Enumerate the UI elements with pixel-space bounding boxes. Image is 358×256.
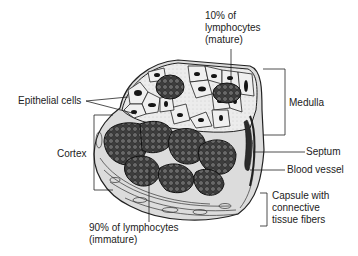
- label-medulla: Medulla: [289, 97, 324, 109]
- label-septum: Septum: [306, 146, 340, 158]
- label-mature-line-1: 10% of: [205, 10, 261, 22]
- label-capsule-line-3: tissue fibers: [272, 214, 329, 226]
- mature-lymphocyte-cluster: [213, 83, 241, 103]
- label-capsule-line-1: Capsule with: [272, 190, 329, 202]
- label-capsule: Capsule with connective tissue fibers: [272, 190, 329, 226]
- label-mature-line-3: (mature): [205, 34, 261, 46]
- label-immature-lymphocytes: 90% of lymphocytes (immature): [89, 222, 179, 246]
- label-immature-line-1: 90% of lymphocytes: [89, 222, 179, 234]
- label-mature-line-2: lymphocytes: [205, 22, 261, 34]
- mature-lymphocyte-cluster: [156, 75, 184, 99]
- label-cortex: Cortex: [57, 148, 86, 160]
- label-immature-line-2: (immature): [89, 234, 179, 246]
- label-mature-lymphocytes: 10% of lymphocytes (mature): [205, 10, 261, 46]
- label-capsule-line-2: connective: [272, 202, 329, 214]
- label-epithelial-cells: Epithelial cells: [18, 95, 81, 107]
- label-blood-vessel: Blood vessel: [287, 164, 344, 176]
